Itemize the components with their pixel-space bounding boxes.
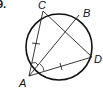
- angle-arc-BAD: [40, 64, 44, 71]
- segment-AD: [29, 57, 92, 76]
- circle: [26, 14, 92, 80]
- geometry-diagram: 9. A C B D: [0, 0, 103, 88]
- problem-number: 9.: [0, 0, 6, 10]
- angle-arc-CAB: [32, 62, 38, 65]
- point-label-C: C: [38, 0, 46, 11]
- tick-mark-AC: [32, 43, 40, 44]
- point-label-A: A: [18, 77, 26, 88]
- point-label-D: D: [94, 53, 102, 65]
- segment-AB: [29, 15, 79, 76]
- point-label-B: B: [83, 7, 90, 19]
